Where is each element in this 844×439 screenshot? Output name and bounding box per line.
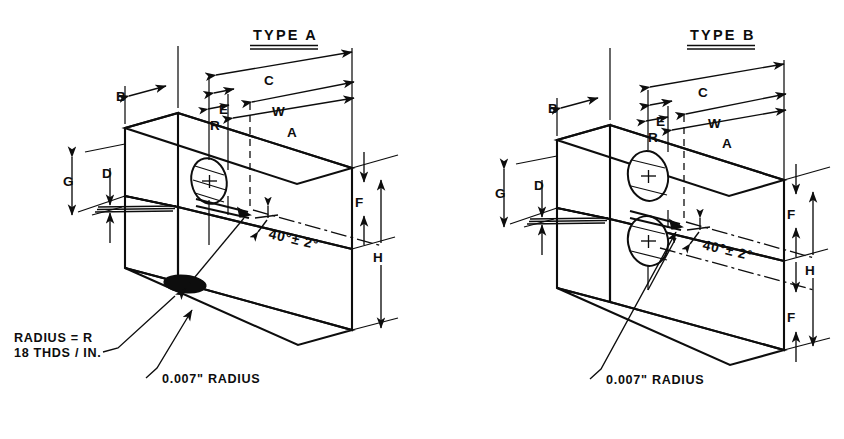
type-b-angle-base <box>687 227 710 230</box>
type-a-dim-c <box>216 52 352 75</box>
type-a-left-upper-face <box>125 113 178 207</box>
type-b-block <box>557 125 784 365</box>
type-a-label-h: H <box>373 250 383 265</box>
type-b-dim-e <box>650 101 672 105</box>
type-b-label-f-lower: F <box>787 310 796 325</box>
type-a-leader-radius-r <box>103 296 175 352</box>
type-a-leader-notch-tip <box>185 218 244 289</box>
type-b-label-b: B <box>548 101 558 116</box>
type-b-top-dimensions <box>561 64 786 130</box>
view-type-a: TYPE A <box>14 27 398 386</box>
type-a-title: TYPE A <box>253 27 318 43</box>
type-a-label-c: C <box>264 73 274 88</box>
type-b-left-upper-face <box>557 125 610 219</box>
type-a-right-dimensions <box>364 152 381 328</box>
type-b-left-lower-face <box>557 208 610 302</box>
type-a-note-thds: 18 THDS / IN. <box>14 346 101 360</box>
type-a-shelf-edge <box>125 196 178 207</box>
type-a-note-007-radius: 0.007" RADIUS <box>162 372 260 386</box>
type-b-top-face <box>557 125 784 196</box>
type-a-groove-tip <box>238 208 250 217</box>
type-b-bottom-face <box>557 288 784 365</box>
type-a-notch-line-1 <box>98 206 176 207</box>
type-a-top-face <box>125 113 352 184</box>
type-a-angle-text: 40°± 2° <box>267 226 320 252</box>
type-b-label-e: E <box>656 114 666 129</box>
type-b-notch-line-3 <box>529 221 607 222</box>
type-b-groove-tip <box>670 220 682 229</box>
type-a-note-radius-r: RADIUS = R <box>14 331 93 345</box>
type-b-angle-text: 40°± 2° <box>701 237 754 263</box>
type-a-bottom-face <box>125 268 352 345</box>
engineering-drawing-sheet: TYPE A <box>0 0 844 439</box>
type-b-dim-b <box>561 98 598 108</box>
type-a-leader-007 <box>146 310 192 378</box>
type-a-label-r: R <box>210 118 220 133</box>
type-a-label-g: G <box>63 174 74 189</box>
type-a-label-f: F <box>355 195 364 210</box>
type-b-notch-line-1 <box>530 218 608 219</box>
type-b-label-r: R <box>648 130 658 145</box>
type-a-top-dimensions <box>129 52 354 118</box>
type-a-label-b: B <box>116 89 126 104</box>
type-b-label-w: W <box>708 116 721 131</box>
type-a-bottom-hole <box>163 273 207 294</box>
type-b-upper-hole <box>624 148 672 204</box>
type-b-label-g: G <box>495 186 506 201</box>
type-b-dim-c <box>650 64 784 87</box>
view-type-b: TYPE B <box>495 27 830 387</box>
type-b-label-h: H <box>805 263 815 278</box>
type-b-label-d: D <box>534 178 544 193</box>
type-b-label-f-upper: F <box>787 207 796 222</box>
type-b-label-c: C <box>698 85 708 100</box>
drawing-canvas: TYPE A <box>0 0 844 439</box>
type-a-dim-b <box>129 86 166 96</box>
type-a-label-d: D <box>102 166 112 181</box>
type-a-notch-line-3 <box>97 209 175 210</box>
type-a-front-lower-face <box>178 207 352 330</box>
type-b-note-007-radius: 0.007" RADIUS <box>606 373 704 387</box>
type-a-label-a: A <box>287 125 297 140</box>
type-b-title: TYPE B <box>690 27 756 43</box>
type-a-dim-a <box>233 98 354 118</box>
type-a-label-e: E <box>219 102 229 117</box>
type-b-shelf-edge <box>557 208 610 219</box>
type-a-dim-e <box>214 89 234 93</box>
type-a-label-w: W <box>272 104 285 119</box>
type-a-threaded-hole <box>187 155 231 207</box>
type-b-label-a: A <box>722 136 732 151</box>
